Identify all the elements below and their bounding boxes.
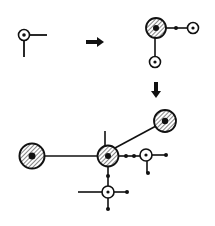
junction-dot-2 xyxy=(132,154,136,158)
stage-1-seed-node xyxy=(19,30,48,58)
right-leaf-end-dot-down xyxy=(146,171,150,175)
edge-center-to-topright xyxy=(115,126,156,148)
right-leaf-node-dot xyxy=(144,153,147,156)
stage-3-network xyxy=(20,110,177,211)
network-growth-diagram xyxy=(0,0,215,226)
leaf-node-bottom-dot xyxy=(153,60,156,63)
center-hub-center-dot xyxy=(105,153,111,159)
left-hub-center-dot xyxy=(29,153,36,160)
leaf-node-right-dot xyxy=(191,26,194,29)
arrow-down-icon xyxy=(151,82,161,98)
topright-hub-center-dot xyxy=(162,118,168,124)
hub-node-center-dot xyxy=(153,25,159,31)
junction-dot-1 xyxy=(124,154,128,158)
bottom-leaf-end-dot-down xyxy=(106,207,110,211)
junction-dot xyxy=(174,26,178,30)
stage-2-hub xyxy=(146,18,199,68)
bottom-leaf-end-dot-right xyxy=(125,190,129,194)
right-leaf-end-dot-right xyxy=(164,153,168,157)
seed-node-center-dot xyxy=(22,33,26,37)
junction-dot-3 xyxy=(106,174,110,178)
bottom-leaf-node-dot xyxy=(106,190,109,193)
arrow-right-icon xyxy=(86,37,104,47)
